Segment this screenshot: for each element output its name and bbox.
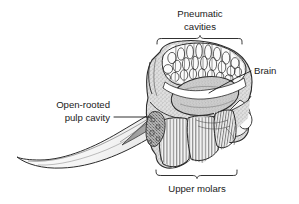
upper-molars-brace bbox=[156, 170, 237, 179]
anatomical-figure: Pneumatic cavities Brain Open-rooted pul… bbox=[0, 0, 299, 204]
label-upper-molars: Upper molars bbox=[168, 183, 226, 194]
label-pulp-cavity-line1: Open-rooted bbox=[56, 99, 110, 110]
cranium-group bbox=[145, 38, 260, 174]
label-brain: Brain bbox=[254, 65, 276, 76]
label-pulp-cavity-line2: pulp cavity bbox=[65, 112, 111, 123]
label-pneumatic-cavities-line1: Pneumatic bbox=[177, 8, 223, 19]
label-pneumatic-cavities-line2: cavities bbox=[184, 21, 216, 32]
